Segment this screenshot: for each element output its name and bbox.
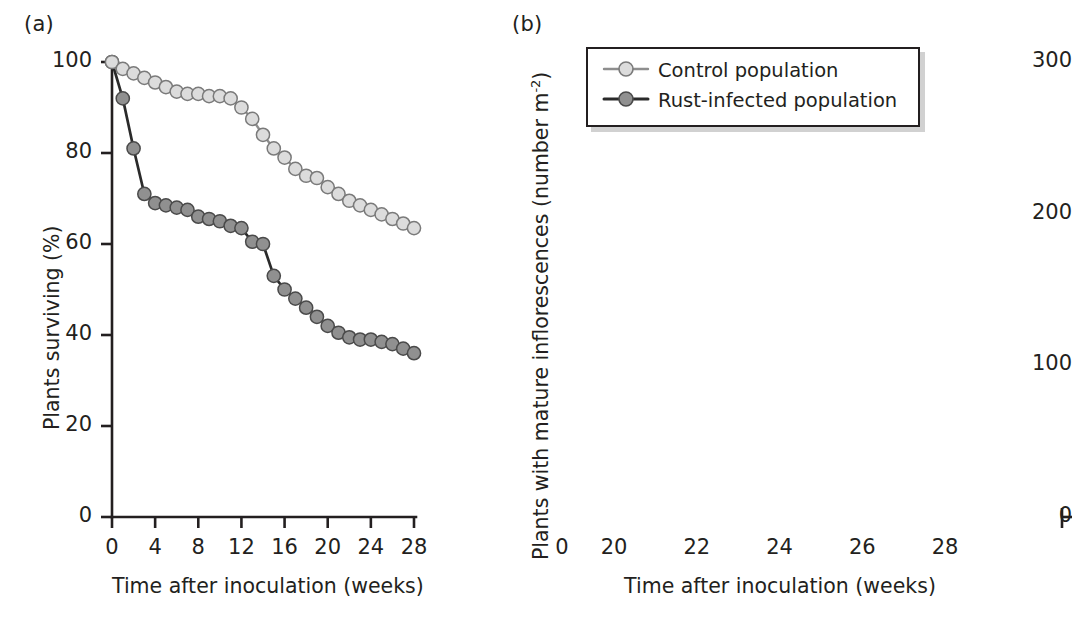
legend-swatch-rust-infected [604,92,648,106]
panel-b: (b) Plants with mature inflorescences (n… [500,0,1000,618]
panel-a-y-tick-20: 20 [30,412,92,436]
panel-a-x-tick-8: 8 [174,535,222,559]
panel-b-x-tick-0: 0 [538,535,586,559]
panel-a-x-tick-16: 16 [261,535,309,559]
panel-b-x-tick-28: 28 [917,535,973,559]
panel-a-x-tick-24: 24 [347,535,395,559]
panel-b-x-tick-26: 26 [834,535,890,559]
panel-a-x-tick-28: 28 [390,535,438,559]
panel-b-x-tick-20: 20 [586,535,642,559]
panel-a-x-tick-0: 0 [88,535,136,559]
legend-label-control: Control population [658,59,838,82]
panel-a-y-tick-80: 80 [30,139,92,163]
panel-a: (a) Plants surviving (%) Time after inoc… [0,0,500,618]
panel-b-x-tick-22: 22 [669,535,725,559]
panel-b-axes [1062,61,1072,528]
panel-a-y-tick-100: 100 [30,48,92,72]
panel-b-x-tick-24: 24 [752,535,808,559]
panel-b-y-tick-200: 200 [960,200,1072,224]
legend-label-rust: Rust-infected population [658,89,897,112]
legend-swatch-control [604,62,648,76]
legend: Control population Rust-infected populat… [586,47,920,127]
panel-b-y-tick-0: 0 [960,503,1072,527]
panel-a-y-tick-40: 40 [30,321,92,345]
panel-b-y-tick-300: 300 [960,48,1072,72]
panel-a-x-tick-4: 4 [131,535,179,559]
panel-a-y-tick-60: 60 [30,230,92,254]
panel-a-x-tick-20: 20 [304,535,352,559]
panel-a-series-group [105,55,420,359]
panel-b-y-tick-100: 100 [960,351,1072,375]
panel-a-y-tick-0: 0 [30,503,92,527]
panel-a-x-tick-12: 12 [217,535,265,559]
